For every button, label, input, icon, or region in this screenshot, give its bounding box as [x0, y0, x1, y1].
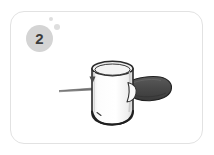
cylinder-opening — [95, 64, 130, 75]
step-illustration — [11, 12, 204, 145]
instruction-step-card: 2 — [10, 11, 203, 144]
cylinder-cup — [92, 61, 133, 124]
